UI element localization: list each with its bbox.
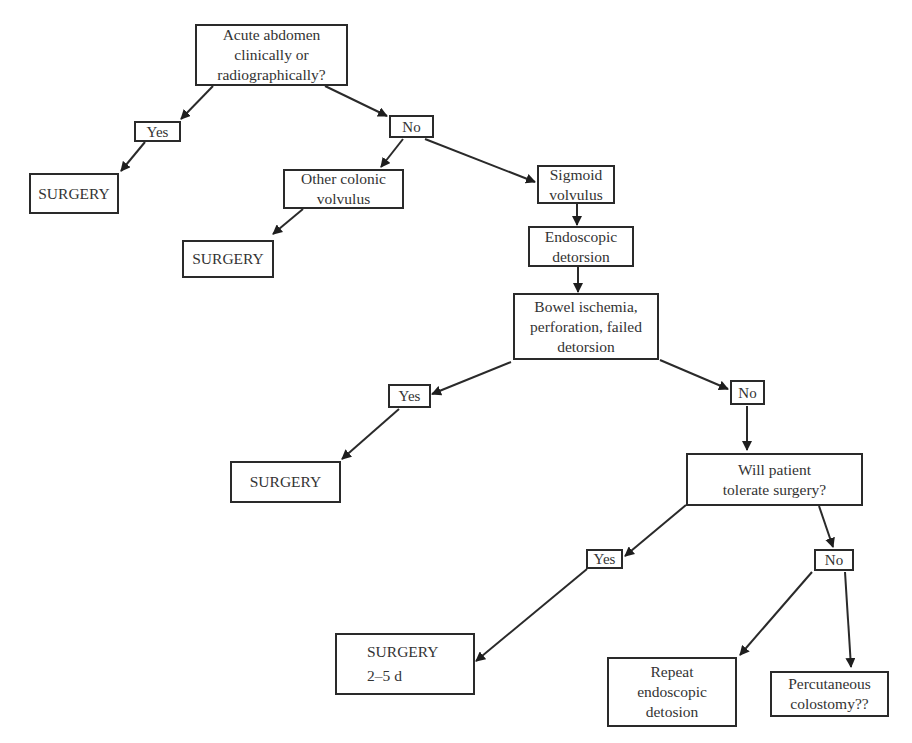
node-endoscopic-detorsion-text: Endoscopic detorsion	[545, 227, 617, 267]
label-no-2: No	[730, 380, 765, 405]
node-bowel-ischemia: Bowel ischemia, perforation, failed deto…	[513, 293, 659, 360]
node-surgery-1-text: SURGERY	[38, 184, 110, 204]
label-yes-3: Yes	[586, 549, 623, 569]
arrow-bowel_ischemia-to-yes_2	[432, 362, 511, 394]
arrow-yes_1-to-surgery_1	[121, 142, 145, 171]
flowchart-edges	[0, 0, 912, 743]
arrow-will_tolerate-to-yes_3	[625, 505, 686, 556]
arrow-acute_abdomen-to-yes_1	[181, 86, 213, 119]
label-yes-2-text: Yes	[399, 388, 421, 404]
node-surgery-2-text: SURGERY	[192, 249, 264, 269]
node-surgery-1: SURGERY	[29, 173, 119, 214]
arrow-no_1-to-sigmoid_volvulus	[425, 139, 535, 182]
arrow-no_3-to-percutaneous_colostomy	[845, 572, 851, 667]
label-no-1: No	[389, 115, 434, 138]
arrow-no_3-to-repeat_endoscopic	[740, 572, 812, 655]
edge-layer	[121, 86, 851, 667]
label-no-3: No	[814, 549, 854, 571]
arrow-yes_2-to-surgery_3	[342, 409, 399, 459]
arrow-other_colonic-to-surgery_2	[273, 209, 303, 234]
node-other-colonic-volvulus: Other colonic volvulus	[283, 169, 404, 209]
flowchart-canvas: Acute abdomen clinically or radiographic…	[0, 0, 912, 743]
node-percutaneous-colostomy-text: Percutaneous colostomy??	[788, 674, 871, 714]
node-surgery-3-text: SURGERY	[250, 472, 322, 492]
node-sigmoid-volvulus: Sigmoid volvulus	[537, 165, 615, 204]
label-no-2-text: No	[738, 385, 756, 401]
node-surgery-3: SURGERY	[230, 461, 341, 503]
arrow-acute_abdomen-to-no_1	[325, 86, 387, 116]
node-other-colonic-volvulus-text: Other colonic volvulus	[301, 169, 386, 209]
arrow-will_tolerate-to-no_3	[819, 506, 833, 547]
arrow-yes_3-to-surgery_delayed	[476, 569, 587, 661]
node-percutaneous-colostomy: Percutaneous colostomy??	[770, 671, 889, 717]
node-repeat-endoscopic-detorsion-text: Repeat endoscopic detosion	[637, 662, 707, 722]
arrow-bowel_ischemia-to-no_2	[660, 360, 728, 389]
label-no-3-text: No	[825, 552, 843, 568]
node-bowel-ischemia-text: Bowel ischemia, perforation, failed deto…	[530, 297, 642, 357]
arrow-no_1-to-other_colonic	[381, 139, 403, 167]
node-repeat-endoscopic-detorsion: Repeat endoscopic detosion	[607, 657, 737, 727]
node-surgery-delayed-text: SURGERY	[367, 640, 439, 664]
node-will-patient-tolerate-surgery: Will patient tolerate surgery?	[686, 453, 863, 506]
node-surgery-2: SURGERY	[182, 240, 274, 278]
label-yes-1: Yes	[134, 121, 181, 142]
label-no-1-text: No	[402, 119, 420, 135]
node-acute-abdomen: Acute abdomen clinically or radiographic…	[195, 24, 348, 86]
node-acute-abdomen-text: Acute abdomen clinically or radiographic…	[217, 25, 325, 85]
label-yes-3-text: Yes	[594, 551, 616, 567]
node-endoscopic-detorsion: Endoscopic detorsion	[528, 226, 634, 267]
node-surgery-delayed: SURGERY 2–5 d	[335, 633, 475, 695]
node-surgery-delayed-timing: 2–5 d	[367, 664, 402, 688]
label-yes-1-text: Yes	[147, 124, 169, 140]
node-will-patient-tolerate-surgery-text: Will patient tolerate surgery?	[723, 460, 826, 500]
label-yes-2: Yes	[388, 384, 431, 408]
node-sigmoid-volvulus-text: Sigmoid volvulus	[549, 165, 602, 205]
